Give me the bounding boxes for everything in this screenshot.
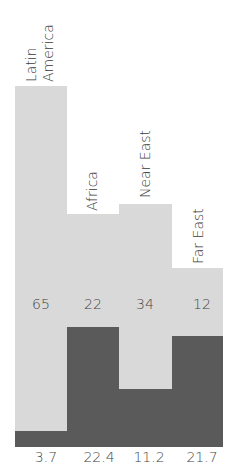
value-near-east-top: 34 [119, 296, 171, 312]
bar-africa-dark [67, 327, 119, 447]
bar-near-east-dark [119, 389, 172, 447]
category-label-latin-line2: America [41, 24, 55, 82]
bar-latin-america-light [15, 86, 67, 447]
value-africa-bottom: 22.4 [73, 449, 125, 465]
bar-latin-america-dark [15, 431, 67, 447]
value-latin-america-bottom: 3.7 [20, 449, 72, 465]
value-near-east-bottom: 11.2 [123, 449, 175, 465]
value-latin-america-top: 65 [15, 296, 67, 312]
category-label-near-east: Near East [138, 130, 152, 198]
category-label-far-east: Far East [191, 208, 205, 264]
category-label-latin-line1: Latin [24, 47, 38, 82]
value-far-east-bottom: 21.7 [176, 449, 228, 465]
value-far-east-top: 12 [176, 296, 228, 312]
value-africa-top: 22 [67, 296, 119, 312]
bar-far-east-dark [172, 336, 223, 447]
category-label-africa: Africa [85, 171, 99, 211]
